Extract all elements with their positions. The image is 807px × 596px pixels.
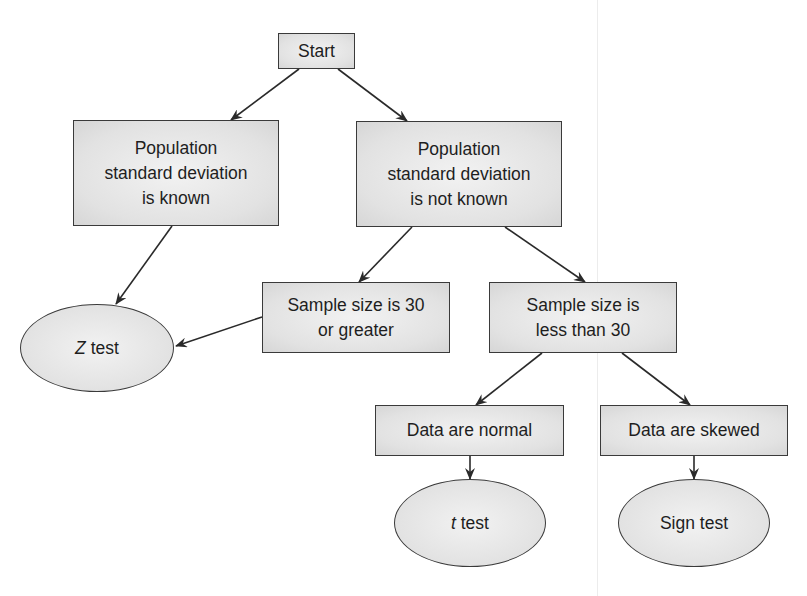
edge-sd-unknown-to-n-ge-30 (359, 227, 412, 282)
node-t-test-label: t test (451, 511, 489, 536)
node-start-label: Start (298, 39, 335, 64)
edge-n-ge-30-to-z-test (176, 317, 262, 346)
node-z-test: Z test (20, 304, 174, 392)
z-symbol: Z (75, 338, 86, 358)
node-start: Start (278, 33, 355, 69)
node-sign-test: Sign test (618, 479, 770, 567)
node-sd-known: Population standard deviation is known (73, 120, 279, 226)
node-data-skewed-label: Data are skewed (628, 418, 759, 443)
node-sd-unknown-label: Population standard deviation is not kno… (387, 137, 530, 212)
z-test-text: test (86, 338, 119, 358)
node-sd-known-label: Population standard deviation is known (104, 136, 247, 211)
edge-start-to-sd-known (231, 69, 299, 120)
node-t-test: t test (394, 479, 546, 567)
node-data-skewed: Data are skewed (600, 405, 788, 456)
node-sample-lt-30-label: Sample size is less than 30 (527, 293, 640, 343)
edge-sd-unknown-to-n-lt-30 (505, 227, 585, 282)
node-sample-lt-30: Sample size is less than 30 (489, 282, 677, 353)
edge-n-lt-30-to-data-normal (476, 353, 542, 405)
flowchart-canvas: Start Population standard deviation is k… (0, 0, 807, 596)
node-z-test-label: Z test (75, 336, 119, 361)
edge-n-lt-30-to-data-skewed (622, 353, 690, 405)
node-sample-ge-30-label: Sample size is 30 or greater (287, 293, 424, 343)
node-data-normal-label: Data are normal (407, 418, 532, 443)
node-sign-test-label: Sign test (660, 511, 728, 536)
edge-sd-known-to-z-test (116, 226, 172, 304)
t-test-text: test (456, 513, 489, 533)
node-sample-ge-30: Sample size is 30 or greater (262, 282, 450, 353)
edge-start-to-sd-unknown (338, 69, 407, 121)
node-sd-unknown: Population standard deviation is not kno… (356, 121, 562, 227)
node-data-normal: Data are normal (375, 405, 564, 456)
